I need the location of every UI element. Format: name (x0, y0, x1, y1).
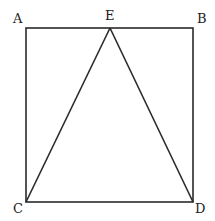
label-a: A (12, 11, 23, 26)
segment-ed (110, 28, 193, 202)
label-d: D (195, 201, 205, 216)
label-b: B (197, 11, 207, 26)
square-abdc (26, 28, 193, 202)
label-e: E (105, 8, 115, 23)
label-c: C (13, 201, 23, 216)
geometry-diagram: A B C D E (0, 0, 215, 221)
segment-ec (26, 28, 110, 202)
